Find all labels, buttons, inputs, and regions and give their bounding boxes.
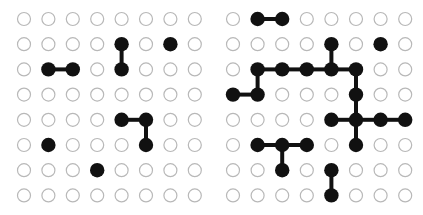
empty-node — [374, 164, 387, 177]
empty-node — [140, 13, 153, 26]
empty-node — [350, 164, 363, 177]
empty-node — [66, 139, 79, 152]
empty-node — [42, 38, 55, 51]
empty-node — [140, 38, 153, 51]
empty-node — [91, 88, 104, 101]
empty-node — [399, 88, 412, 101]
empty-node — [91, 13, 104, 26]
filled-node — [250, 87, 264, 101]
empty-node — [91, 113, 104, 126]
empty-node — [42, 189, 55, 202]
empty-node — [276, 189, 289, 202]
filled-node — [324, 188, 338, 202]
empty-node — [115, 189, 128, 202]
empty-node — [188, 139, 201, 152]
empty-node — [91, 38, 104, 51]
filled-node — [300, 138, 314, 152]
empty-node — [325, 88, 338, 101]
filled-node — [373, 113, 387, 127]
filled-node — [114, 37, 128, 51]
empty-node — [115, 88, 128, 101]
empty-node — [188, 164, 201, 177]
filled-node — [66, 62, 80, 76]
empty-node — [164, 139, 177, 152]
filled-node — [250, 62, 264, 76]
empty-node — [325, 13, 338, 26]
empty-node — [374, 139, 387, 152]
filled-node — [41, 138, 55, 152]
empty-node — [42, 164, 55, 177]
empty-node — [18, 139, 31, 152]
empty-node — [140, 189, 153, 202]
left-grid — [18, 13, 202, 202]
empty-node — [115, 139, 128, 152]
empty-node — [374, 88, 387, 101]
empty-node — [276, 88, 289, 101]
filled-node — [139, 113, 153, 127]
filled-node — [324, 37, 338, 51]
empty-node — [374, 189, 387, 202]
filled-node — [250, 12, 264, 26]
empty-node — [300, 164, 313, 177]
empty-node — [227, 189, 240, 202]
empty-node — [164, 189, 177, 202]
empty-node — [18, 38, 31, 51]
empty-node — [188, 113, 201, 126]
empty-node — [399, 139, 412, 152]
empty-node — [91, 189, 104, 202]
empty-node — [18, 113, 31, 126]
empty-node — [66, 88, 79, 101]
empty-node — [115, 164, 128, 177]
empty-node — [42, 113, 55, 126]
filled-node — [324, 163, 338, 177]
empty-node — [300, 38, 313, 51]
filled-node — [275, 163, 289, 177]
empty-node — [276, 113, 289, 126]
empty-node — [42, 13, 55, 26]
filled-node — [300, 62, 314, 76]
filled-node — [90, 163, 104, 177]
right-grid — [226, 12, 413, 203]
filled-node — [275, 62, 289, 76]
empty-node — [140, 63, 153, 76]
empty-node — [251, 164, 264, 177]
empty-node — [350, 189, 363, 202]
empty-node — [91, 139, 104, 152]
empty-node — [300, 113, 313, 126]
empty-node — [66, 189, 79, 202]
filled-node — [41, 62, 55, 76]
empty-node — [164, 113, 177, 126]
filled-node — [275, 12, 289, 26]
empty-node — [164, 63, 177, 76]
empty-node — [227, 139, 240, 152]
empty-node — [18, 13, 31, 26]
empty-node — [276, 38, 289, 51]
empty-node — [300, 189, 313, 202]
filled-node — [324, 113, 338, 127]
empty-node — [115, 13, 128, 26]
filled-node — [349, 62, 363, 76]
empty-node — [18, 88, 31, 101]
empty-node — [374, 63, 387, 76]
empty-node — [350, 13, 363, 26]
filled-node — [114, 113, 128, 127]
empty-node — [374, 13, 387, 26]
empty-node — [188, 63, 201, 76]
empty-node — [18, 189, 31, 202]
filled-node — [114, 62, 128, 76]
empty-node — [399, 63, 412, 76]
dot-grid-figure — [0, 0, 423, 215]
empty-node — [66, 164, 79, 177]
empty-node — [227, 38, 240, 51]
empty-node — [91, 63, 104, 76]
empty-node — [188, 13, 201, 26]
empty-node — [66, 38, 79, 51]
filled-node — [324, 62, 338, 76]
empty-node — [164, 164, 177, 177]
empty-node — [66, 13, 79, 26]
empty-node — [227, 113, 240, 126]
empty-node — [325, 139, 338, 152]
empty-node — [66, 113, 79, 126]
empty-node — [164, 88, 177, 101]
empty-node — [140, 88, 153, 101]
